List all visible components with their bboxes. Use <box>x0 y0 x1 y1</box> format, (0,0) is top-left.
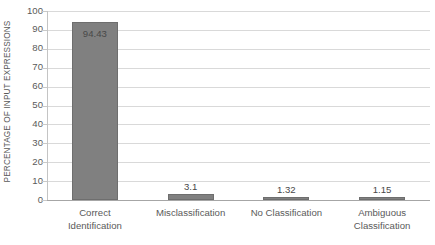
bar[interactable] <box>263 197 309 200</box>
bar[interactable] <box>359 197 405 200</box>
x-axis-category-label: AmbiguousClassification <box>334 207 430 232</box>
bar[interactable] <box>72 22 118 200</box>
bar-chart: PERCENTAGE OF INPUT EXPRESSIONS 10090807… <box>0 0 435 245</box>
x-axis-category-label-line: Correct <box>47 207 143 220</box>
x-axis-category-label-line: Ambiguous <box>334 207 430 220</box>
bar-value-label: 94.43 <box>65 28 125 39</box>
bars-layer: 94.433.11.321.15 <box>47 11 430 201</box>
x-axis-category-label-line: Classification <box>334 220 430 233</box>
x-axis-category-label-line: Misclassification <box>143 207 239 220</box>
bar-value-label: 1.15 <box>352 184 412 195</box>
x-axis-category-labels: CorrectIdentificationMisclassificationNo… <box>47 203 430 245</box>
bar[interactable] <box>168 194 214 200</box>
y-axis-tick-labels: 1009080706050403020100 <box>16 0 46 206</box>
x-axis-category-label-line: No Classification <box>239 207 335 220</box>
x-axis-category-label: No Classification <box>239 207 335 220</box>
x-axis-category-label: CorrectIdentification <box>47 207 143 232</box>
y-axis-title: PERCENTAGE OF INPUT EXPRESSIONS <box>0 0 16 202</box>
y-axis-title-text: PERCENTAGE OF INPUT EXPRESSIONS <box>4 20 13 182</box>
x-axis-category-label: Misclassification <box>143 207 239 220</box>
bar-value-label: 3.1 <box>161 181 221 192</box>
bar-value-label: 1.32 <box>256 184 316 195</box>
x-axis-category-label-line: Identification <box>47 220 143 233</box>
